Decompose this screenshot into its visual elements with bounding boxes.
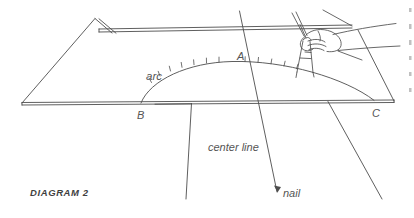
- edge-fragment: [409, 24, 412, 29]
- label-point-c: C: [372, 108, 380, 119]
- forearm-lower: [338, 46, 400, 51]
- arc-tick-marks: [149, 57, 298, 83]
- label-point-a: A: [237, 51, 244, 62]
- diagram-caption: DIAGRAM 2: [30, 188, 89, 198]
- label-point-b: B: [137, 110, 144, 121]
- hand-holding-compass: [292, 10, 400, 78]
- compass-point-left: [296, 72, 297, 78]
- center-line-stroke: [240, 11, 278, 192]
- tick-mark: [169, 66, 170, 71]
- tick-mark: [284, 61, 285, 66]
- board-front-edge-top: [22, 100, 394, 103]
- nail-pivot-point: [274, 186, 281, 193]
- board-left-end: [22, 19, 95, 104]
- page-edge-text-fragments: [409, 8, 412, 92]
- label-center-line: center line: [208, 142, 259, 153]
- edge-fragment: [409, 56, 412, 60]
- label-arc: arc: [146, 71, 162, 83]
- center-line-ray: [240, 11, 278, 192]
- board-outline: [22, 19, 394, 106]
- diagram-page: A B C arc center line nail DIAGRAM 2: [0, 0, 414, 218]
- b-drop-line: [186, 104, 192, 200]
- board-right-end: [358, 30, 394, 101]
- nail-arrowhead: [274, 186, 281, 193]
- tick-mark: [181, 62, 182, 67]
- diagram-illustration: [0, 0, 414, 218]
- line-below-b: [155, 104, 192, 200]
- compass-cross-brace: [300, 58, 311, 59]
- guide-line-upper: [323, 10, 352, 26]
- tick-mark: [271, 59, 272, 64]
- compass-point-right: [313, 73, 314, 78]
- guide-line-lower: [338, 51, 362, 60]
- board-front-edge-bottom: [22, 103, 394, 106]
- edge-fragment: [409, 40, 412, 45]
- compass-leg-right: [310, 42, 313, 73]
- label-nail: nail: [283, 188, 300, 199]
- compass-tighten-screw: [305, 52, 311, 53]
- board-notch-upper: [95, 19, 112, 34]
- tick-mark: [258, 57, 259, 62]
- edge-fragment: [409, 72, 412, 76]
- edge-fragment: [409, 8, 412, 12]
- edge-fragment: [409, 88, 412, 92]
- board-notch-lower: [99, 19, 116, 33]
- compass-leg-left: [297, 41, 303, 72]
